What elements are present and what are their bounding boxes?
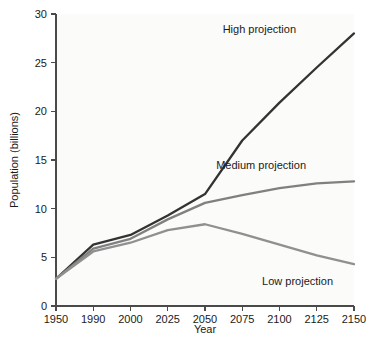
annotation-high-projection: High projection <box>223 23 296 35</box>
x-tick-label: 2000 <box>118 313 142 325</box>
x-axis-title: Year <box>194 323 217 335</box>
x-tick-label: 2025 <box>156 313 180 325</box>
population-projection-chart: 051015202530 195019902000202520502075210… <box>0 0 369 339</box>
y-tick-label: 30 <box>35 8 47 20</box>
y-tick-label: 10 <box>35 203 47 215</box>
y-tick-label: 5 <box>41 251 47 263</box>
y-tick-marks: 051015202530 <box>35 8 56 312</box>
y-tick-label: 20 <box>35 105 47 117</box>
y-tick-label: 15 <box>35 154 47 166</box>
plot-background <box>56 14 354 306</box>
y-tick-label: 25 <box>35 57 47 69</box>
y-axis-title: Population (billions) <box>8 112 20 208</box>
x-tick-label: 2075 <box>230 313 254 325</box>
x-tick-label: 1990 <box>81 313 105 325</box>
annotation-low-projection: Low projection <box>262 275 333 287</box>
x-tick-label: 2150 <box>342 313 366 325</box>
x-tick-label: 2100 <box>267 313 291 325</box>
chart-figure: 051015202530 195019902000202520502075210… <box>0 0 369 339</box>
x-tick-label: 2125 <box>305 313 329 325</box>
y-tick-label: 0 <box>41 300 47 312</box>
annotation-medium-projection: Medium projection <box>216 159 306 171</box>
x-tick-label: 1950 <box>44 313 68 325</box>
